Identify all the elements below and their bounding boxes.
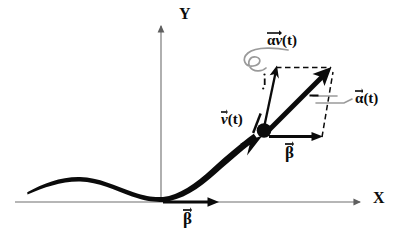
beta-glyph: β <box>183 209 192 228</box>
x-axis-label: X <box>373 190 385 206</box>
v-vector-accent-group: v <box>221 111 228 127</box>
alpha-of-t-label: α(t) <box>355 90 378 106</box>
v-of-t-suffix: (t) <box>228 111 243 127</box>
v-glyph: v <box>275 32 282 48</box>
beta-lower-label: β <box>183 209 192 227</box>
alpha-v-tick-marks <box>262 73 266 89</box>
beta-glyph: β <box>285 143 294 162</box>
diagram-canvas <box>0 0 398 245</box>
alpha-vector-accent-group: α <box>355 90 363 106</box>
alpha-of-t-suffix: (t) <box>363 90 378 106</box>
beta-upper-accent-group: β <box>285 143 294 161</box>
trajectory-curve <box>27 134 262 202</box>
particle-dot <box>257 123 272 138</box>
alpha-v-of-t-label: αv(t) <box>267 32 297 48</box>
beta-upper-label: β <box>285 143 294 161</box>
alpha-leader-line <box>313 96 352 103</box>
alpha-v-of-t-suffix: (t) <box>282 32 297 48</box>
alpha-vector <box>262 67 332 137</box>
alpha-glyph: α <box>355 90 363 106</box>
beta-lower-accent-group: β <box>183 209 192 227</box>
v-of-t-label: v(t) <box>221 111 243 127</box>
v-glyph: v <box>221 111 228 127</box>
y-axis-label: Y <box>179 6 191 22</box>
alpha-leader-tick <box>310 95 319 97</box>
beta-upper-vector <box>269 132 323 141</box>
axis-group <box>15 26 360 202</box>
alpha-v-vector-accent-group: αv <box>267 32 282 48</box>
vector-diagram: Y X αv(t) α(t) <box>0 0 398 245</box>
